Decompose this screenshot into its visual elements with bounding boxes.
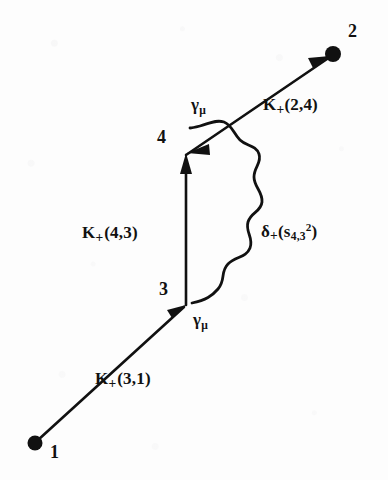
diagram-canvas: 2 1 4 3 γμ γμ K+(2,4) K+(4,3) K+(3,1) δ+… (0, 0, 388, 480)
gamma-symbol-upper: γ (191, 95, 199, 114)
k43-base: K (82, 223, 95, 242)
propagator-wavy-photon (187, 121, 262, 303)
gamma-symbol-lower: γ (193, 310, 201, 329)
k43-args: (4,3) (104, 223, 138, 242)
k31-args: (3,1) (117, 369, 151, 388)
endpoint-dot-2 (325, 46, 341, 62)
propagator-line-k43 (180, 153, 192, 305)
delta-subscript: 4,3 (291, 230, 306, 243)
vertex-label-4: 4 (157, 128, 166, 146)
mu-subscript-lower: μ (201, 319, 208, 332)
delta-open: (s (278, 222, 291, 241)
delta-close: ) (312, 222, 318, 241)
propagator-label-k43: K+(4,3) (82, 224, 138, 244)
mu-subscript-upper: μ (199, 104, 206, 117)
gamma-mu-lower-label: γμ (193, 311, 208, 331)
k43-plus: + (95, 230, 104, 245)
endpoint-label-2: 2 (348, 22, 357, 40)
k31-plus: + (108, 376, 117, 391)
gamma-mu-upper-label: γμ (191, 96, 206, 116)
feynman-diagram-graphic (0, 0, 388, 480)
delta-plus: + (270, 228, 278, 243)
k24-base: K (263, 95, 276, 114)
propagator-label-photon: δ+(s4,32) (261, 222, 317, 243)
vertex-label-3: 3 (159, 280, 168, 298)
k24-args: (2,4) (284, 95, 318, 114)
arrowhead-k31 (167, 305, 186, 318)
k31-base: K (95, 369, 108, 388)
propagator-label-k24: K+(2,4) (263, 96, 318, 116)
propagator-label-k31: K+(3,1) (95, 370, 151, 390)
delta-base: δ (261, 222, 270, 241)
endpoint-dot-1 (28, 436, 43, 451)
endpoint-label-1: 1 (50, 443, 59, 461)
